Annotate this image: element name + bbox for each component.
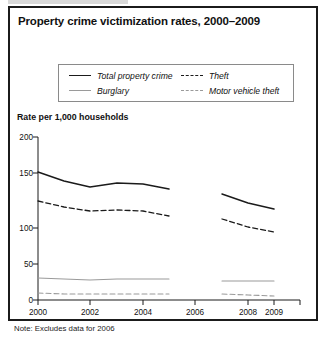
line-solid-gray-swatch-icon: [69, 86, 91, 96]
y-tick-label-0: 0: [11, 296, 33, 305]
y-tick-label-150: 150: [11, 169, 33, 178]
y-tick-label-50: 50: [11, 260, 33, 269]
page-top-sliver: [8, 0, 128, 4]
line-dashed-dark-swatch-icon: [181, 71, 203, 81]
chart-legend: Total property crime Burglary Theft Moto…: [58, 64, 294, 102]
figure-border-box: [8, 6, 318, 321]
x-tick-label-2006: 2006: [180, 308, 210, 317]
y-tick-label-200: 200: [11, 133, 33, 142]
y-tick-label-100: 100: [11, 224, 33, 233]
legend-item-motor-vehicle-theft: Motor vehicle theft: [181, 86, 279, 96]
legend-label-total-property-crime: Total property crime: [97, 71, 173, 81]
x-tick-label-2009: 2009: [259, 308, 289, 317]
figure-note: Note: Excludes data for 2006: [14, 324, 115, 333]
figure-container: Property crime victimization rates, 2000…: [0, 0, 324, 340]
legend-item-burglary: Burglary: [69, 86, 129, 96]
legend-label-burglary: Burglary: [97, 86, 129, 96]
legend-label-theft: Theft: [209, 71, 229, 81]
legend-label-motor-vehicle-theft: Motor vehicle theft: [209, 86, 279, 96]
x-tick-label-2000: 2000: [23, 308, 53, 317]
legend-item-theft: Theft: [181, 71, 229, 81]
figure-title: Property crime victimization rates, 2000…: [18, 14, 306, 28]
line-solid-dark-swatch-icon: [69, 71, 91, 81]
y-axis-title: Rate per 1,000 households: [17, 112, 128, 122]
x-tick-label-2004: 2004: [128, 308, 158, 317]
x-tick-label-2002: 2002: [75, 308, 105, 317]
line-dashed-gray-swatch-icon: [181, 86, 203, 96]
legend-item-total-property-crime: Total property crime: [69, 71, 173, 81]
